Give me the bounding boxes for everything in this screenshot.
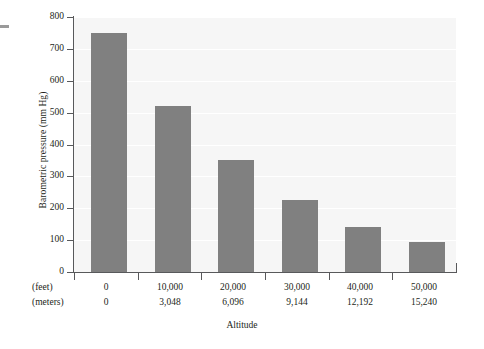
y-axis-tick xyxy=(67,17,74,18)
x-axis-tick-label-text: 12,192 xyxy=(328,296,392,308)
x-axis-label-row: (feet)010,00020,00030,00040,00050,000 xyxy=(0,281,484,293)
y-axis-tick xyxy=(67,272,74,273)
y-axis-tick xyxy=(67,49,74,50)
x-axis-end-tick xyxy=(456,263,457,273)
gridline xyxy=(74,176,456,177)
y-axis-tick-label: 600 xyxy=(14,76,64,86)
y-axis-tick-label: 200 xyxy=(14,203,64,213)
y-axis-tick-label-text: 300 xyxy=(18,171,64,181)
y-axis-tick-label-text: 200 xyxy=(18,203,64,213)
x-axis-tick xyxy=(138,272,139,280)
x-axis-tick xyxy=(201,272,202,280)
gridline xyxy=(74,113,456,114)
gridline xyxy=(74,145,456,146)
x-axis-tick xyxy=(265,272,266,280)
x-axis-tick-label-text: 40,000 xyxy=(328,281,392,293)
y-axis-tick-label: 0 xyxy=(14,267,64,277)
y-axis-tick-label: 300 xyxy=(14,171,64,181)
y-axis-tick-label: 100 xyxy=(14,235,64,245)
x-axis-tick-label-text: 0 xyxy=(74,296,138,308)
x-axis-title: Altitude xyxy=(0,320,484,330)
bar xyxy=(218,160,254,272)
x-axis-tick-label-text: 15,240 xyxy=(392,296,456,308)
y-axis-tick xyxy=(67,176,74,177)
y-axis-tick-label-text: 800 xyxy=(18,12,64,22)
plot-area xyxy=(74,17,456,272)
bar xyxy=(91,33,127,272)
bar xyxy=(345,227,381,272)
barometric-pressure-chart: Barometric pressure (mm Hg) 800700600500… xyxy=(0,0,484,349)
x-axis-tick xyxy=(392,272,393,280)
y-axis-tick xyxy=(67,145,74,146)
y-axis-tick xyxy=(67,240,74,241)
gridline xyxy=(74,81,456,82)
y-axis-tick-label-text: 0 xyxy=(18,267,64,277)
y-axis-tick-label-text: 600 xyxy=(18,76,64,86)
gridline xyxy=(74,17,456,18)
x-axis-tick-label-text: 6,096 xyxy=(201,296,265,308)
y-axis-tick-label: 500 xyxy=(14,108,64,118)
y-axis-tick xyxy=(67,81,74,82)
x-axis-tick-label-text: 0 xyxy=(74,281,138,293)
bar xyxy=(409,242,445,272)
gridline xyxy=(74,49,456,50)
bar xyxy=(282,200,318,272)
y-axis-tick-label-text: 700 xyxy=(18,44,64,54)
y-axis-tick-label-text: 400 xyxy=(18,140,64,150)
x-axis-tick xyxy=(74,272,75,280)
y-axis-tick-label-text: 500 xyxy=(18,108,64,118)
x-axis-tick-label-text: 50,000 xyxy=(392,281,456,293)
gridline xyxy=(74,240,456,241)
y-axis-tick-label-text: 100 xyxy=(18,235,64,245)
bar xyxy=(155,106,191,272)
gridline xyxy=(74,208,456,209)
y-axis-tick xyxy=(67,113,74,114)
x-axis-tick-label-text: 10,000 xyxy=(138,281,202,293)
x-axis-tick-label-text: 20,000 xyxy=(201,281,265,293)
x-axis-tick-label-text: 9,144 xyxy=(265,296,329,308)
x-axis-tick-label-text: 30,000 xyxy=(265,281,329,293)
y-axis-tick-label: 400 xyxy=(14,140,64,150)
y-axis-tick xyxy=(67,208,74,209)
x-axis-label-row: (meters)03,0486,0969,14412,19215,240 xyxy=(0,296,484,308)
x-axis-tick xyxy=(329,272,330,280)
edge-dash-mark xyxy=(0,25,9,28)
y-axis-tick-label: 800 xyxy=(14,12,64,22)
x-axis-tick-label-text: 3,048 xyxy=(138,296,202,308)
y-axis-tick-label: 700 xyxy=(14,44,64,54)
